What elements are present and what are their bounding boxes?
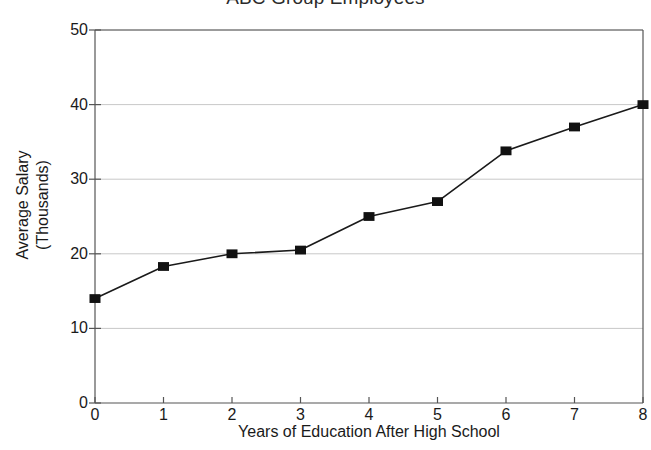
x-tick-label-0: 0 <box>75 406 115 424</box>
x-tick-label-2: 2 <box>212 406 252 424</box>
data-line <box>95 105 643 299</box>
plot-area <box>0 0 651 450</box>
x-axis-title: Years of Education After High School <box>95 423 643 441</box>
x-tick-label-5: 5 <box>418 406 458 424</box>
data-point-6 <box>501 146 512 155</box>
data-point-3 <box>295 246 306 255</box>
data-point-0 <box>90 294 101 303</box>
data-point-4 <box>364 212 375 221</box>
x-tick-label-4: 4 <box>349 406 389 424</box>
x-tick-label-6: 6 <box>486 406 526 424</box>
data-point-8 <box>638 100 649 109</box>
x-tick-label-7: 7 <box>555 406 595 424</box>
gridline-group <box>95 30 643 328</box>
chart-container: ABC Group Employees Average Salary (Thou… <box>0 0 651 450</box>
x-tick-mark-group <box>95 397 643 403</box>
x-tick-label-8: 8 <box>623 406 651 424</box>
data-point-2 <box>227 249 238 258</box>
data-point-1 <box>158 262 169 271</box>
x-tick-label-3: 3 <box>281 406 321 424</box>
data-point-5 <box>432 197 443 206</box>
data-point-7 <box>569 123 580 132</box>
x-tick-label-1: 1 <box>144 406 184 424</box>
